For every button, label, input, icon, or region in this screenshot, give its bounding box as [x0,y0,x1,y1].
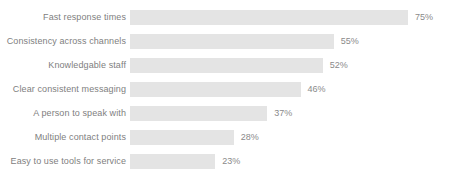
bar-category-label: A person to speak with [0,108,130,119]
bar-track: 75% [130,10,449,25]
bar-category-label: Consistency across channels [0,36,130,47]
bar-track: 37% [130,106,449,121]
bar-row: Fast response times 75% [0,10,449,25]
bar-category-label: Knowledgable staff [0,60,130,71]
bar-track: 46% [130,82,449,97]
bar-category-label: Multiple contact points [0,132,130,143]
bar-value-label: 55% [341,36,359,47]
bar-category-label: Clear consistent messaging [0,84,130,95]
bar-value-label: 28% [241,132,259,143]
bar-row: Knowledgable staff 52% [0,58,449,73]
bar-row: A person to speak with 37% [0,106,449,121]
bar-value-label: 75% [415,12,433,23]
bar-track: 55% [130,34,449,49]
bar-fill [130,154,215,169]
bar-value-label: 46% [308,84,326,95]
bar-value-label: 52% [330,60,348,71]
bar-row: Multiple contact points 28% [0,130,449,145]
bar-row: Clear consistent messaging 46% [0,82,449,97]
bar-fill [130,34,334,49]
bar-fill [130,106,267,121]
bar-track: 52% [130,58,449,73]
bar-fill [130,130,234,145]
bar-fill [130,82,301,97]
bar-category-label: Easy to use tools for service [0,156,130,167]
bar-value-label: 23% [222,156,240,167]
bar-fill [130,58,323,73]
bar-fill [130,10,408,25]
horizontal-bar-chart: Fast response times 75% Consistency acro… [0,0,449,183]
bar-category-label: Fast response times [0,12,130,23]
bar-track: 23% [130,154,449,169]
bar-value-label: 37% [274,108,292,119]
bar-row: Easy to use tools for service 23% [0,154,449,169]
bar-row: Consistency across channels 55% [0,34,449,49]
bar-track: 28% [130,130,449,145]
